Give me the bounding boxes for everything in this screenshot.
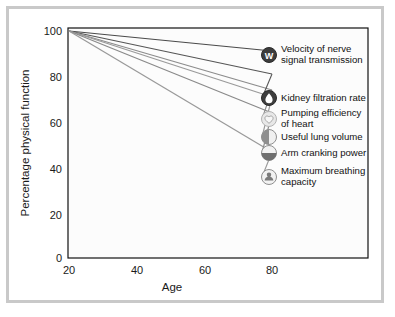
y-tick-80: 80 [50,71,62,83]
nerve-wave-icon-glyph: W [265,51,274,61]
x-tick-40: 40 [131,264,143,276]
arm-power-icon [262,146,277,161]
x-axis-title: Age [162,281,182,293]
x-tick-80: 80 [266,264,278,276]
legend-label-velocity-line1: Velocity of nerve [281,43,351,54]
legend-labels-group: Velocity of nerve signal transmission Ki… [281,43,367,187]
y-axis-title: Percentage physical function [19,69,31,216]
y-axis-ticks: 100 80 60 40 20 0 [44,25,62,264]
legend-label-arm-line1: Arm cranking power [281,147,367,158]
legend-label-heart-line2: of heart [281,118,314,129]
breathing-capacity-icon [262,170,277,185]
chart-page: 100 80 60 40 20 0 20 40 60 80 Age Percen… [0,0,395,317]
legend-label-breathing-line2: capacity [281,176,316,187]
lung-icon [262,130,277,145]
legend-label-kidney-line1: Kidney filtration rate [281,92,366,103]
heart-icon [262,112,277,127]
line-chart: 100 80 60 40 20 0 20 40 60 80 Age Percen… [0,0,395,317]
y-tick-60: 60 [50,117,62,129]
legend-label-breathing-line1: Maximum breathing [281,165,365,176]
y-tick-0: 0 [56,252,62,264]
y-tick-40: 40 [50,163,62,175]
legend-label-lung-line1: Useful lung volume [281,131,363,142]
legend-label-heart-line1: Pumping efficiency [281,107,362,118]
y-tick-100: 100 [44,25,62,37]
legend-label-velocity-line2: signal transmission [281,54,363,65]
y-tick-20: 20 [50,209,62,221]
x-tick-20: 20 [63,264,75,276]
nerve-wave-icon: W [262,48,277,63]
x-tick-60: 60 [199,264,211,276]
kidney-droplet-icon [262,91,277,106]
x-axis-ticks: 20 40 60 80 [63,264,278,276]
